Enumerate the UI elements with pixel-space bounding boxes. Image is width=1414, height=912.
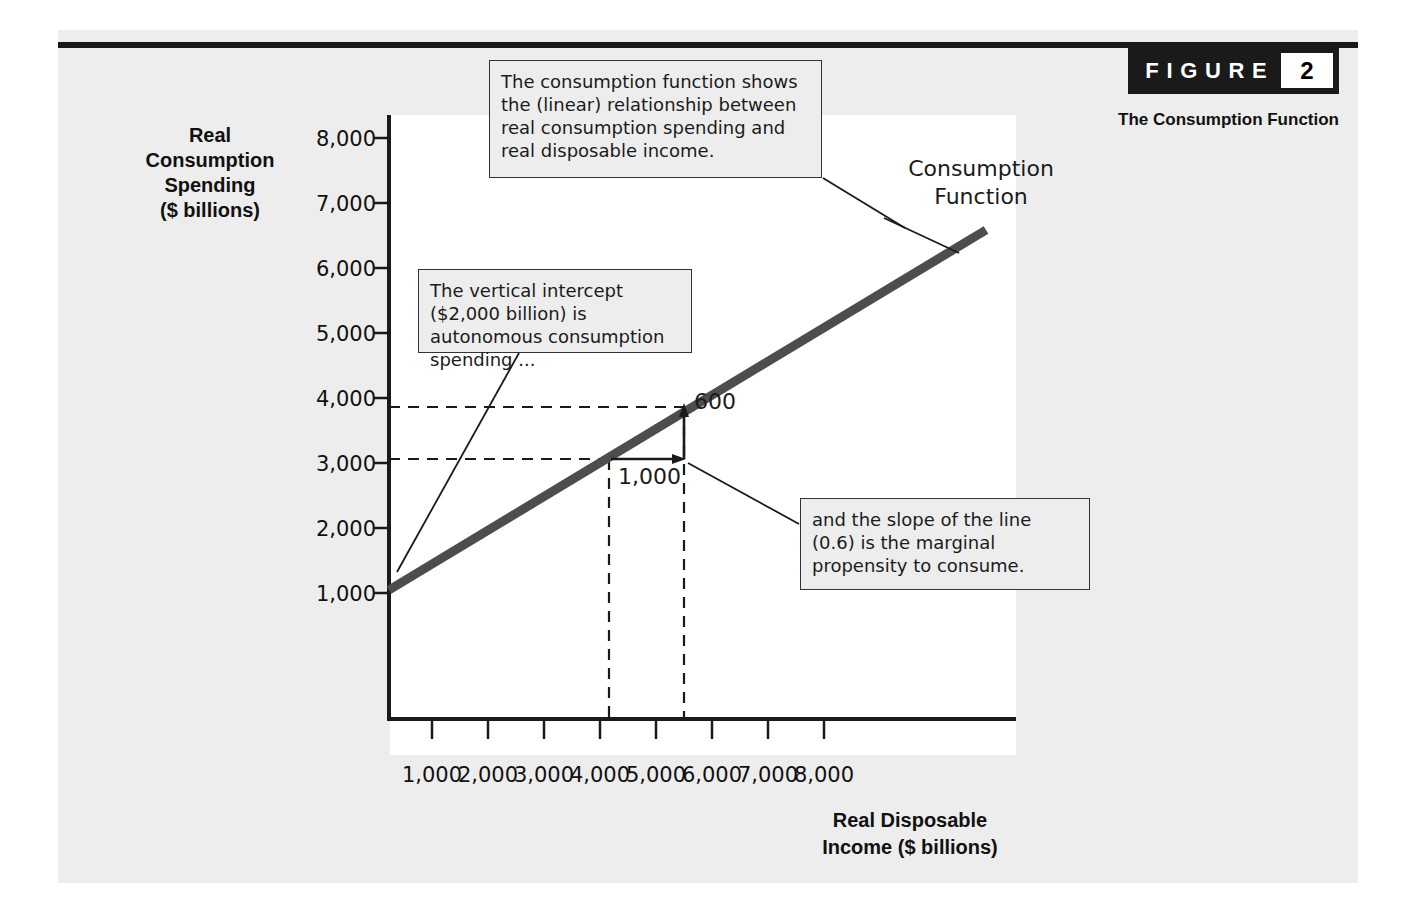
leader-line-top-callout (823, 178, 905, 228)
leader-line-slope-callout (688, 463, 799, 524)
callout-slope-mpc: and the slope of the line (0.6) is the m… (800, 498, 1090, 590)
leader-line-intercept-callout (397, 353, 519, 572)
leader-line-curve-label (884, 218, 959, 253)
curve-label-consumption-function: Consumption Function (896, 155, 1066, 211)
callout-vertical-intercept: The vertical intercept ($2,000 billion) … (418, 269, 692, 353)
run-value-label: 1,000 (618, 463, 681, 491)
callout-consumption-function-description: The consumption function shows the (line… (489, 60, 822, 178)
x-axis-ticks (432, 719, 824, 739)
y-axis-ticks (373, 138, 389, 593)
rise-value-label: 600 (694, 388, 736, 416)
figure-root: F I G U R E 2 The Consumption Function R… (0, 0, 1414, 912)
